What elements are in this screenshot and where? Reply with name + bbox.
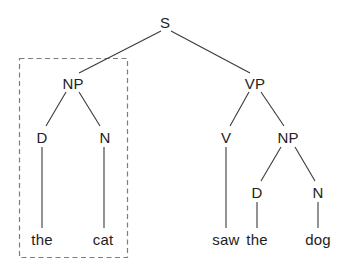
leaf-saw: saw [212,232,239,247]
node-np-right: NP [277,130,298,145]
node-n-left: N [99,130,110,145]
leaf-the-right: the [246,232,267,247]
node-v: V [221,130,231,145]
node-d-left: D [36,130,47,145]
node-d-right: D [251,185,262,200]
node-n-right: N [312,185,323,200]
node-s: S [160,15,170,30]
syntax-tree-diagram: S NP VP D N V NP D N the cat saw the dog [0,0,346,274]
node-np-left: NP [62,76,83,91]
leaf-cat: cat [93,232,114,247]
node-vp: VP [245,76,265,91]
leaf-the-left: the [31,232,52,247]
leaf-dog: dog [305,232,331,247]
